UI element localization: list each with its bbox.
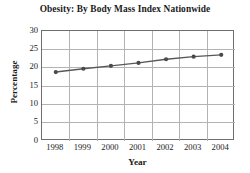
chart-figure: Obesity: By Body Mass Index Nationwide P… (0, 0, 250, 173)
x-axis-tick-label: 2002 (150, 143, 180, 152)
y-axis-tick-label: 25 (16, 44, 38, 53)
y-axis-tick-label: 30 (16, 26, 38, 35)
plot-area (41, 30, 234, 140)
x-axis-tick-label: 1999 (67, 143, 97, 152)
x-axis-tick-label: 2003 (178, 143, 208, 152)
x-axis-tick-label: 2004 (205, 143, 235, 152)
x-axis-tick-labels: 1998199920002001200220032004 (0, 143, 250, 155)
x-axis-tick-label: 2001 (123, 143, 153, 152)
data-series-obesity-percentage (42, 31, 235, 141)
x-axis-tick-label: 1998 (40, 143, 70, 152)
y-axis-tick-label: 20 (16, 62, 38, 71)
x-axis-title: Year (41, 157, 234, 167)
y-axis-tick-label: 10 (16, 99, 38, 108)
y-axis-tick-label: 15 (16, 81, 38, 90)
x-axis-tick-label: 2000 (95, 143, 125, 152)
y-axis-tick-label: 5 (16, 117, 38, 126)
